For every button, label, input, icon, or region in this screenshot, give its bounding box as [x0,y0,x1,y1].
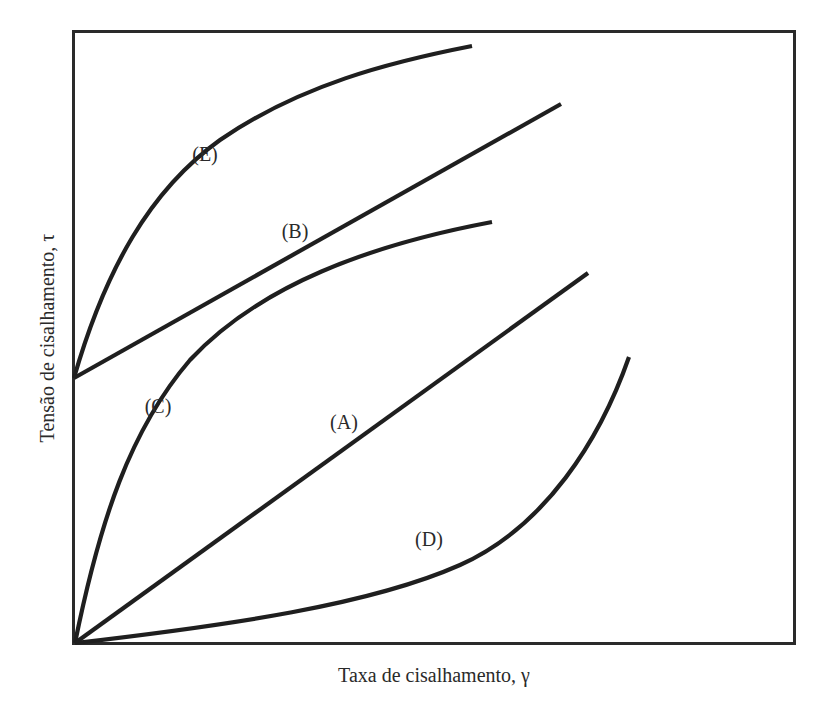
curve-label-b: (B) [282,221,309,241]
plot-frame [74,32,795,644]
rheogram-chart: (E) (B) (C) (A) (D) Taxa de cisalhamento… [0,0,834,701]
x-axis-label: Taxa de cisalhamento, γ [338,664,530,686]
curve-label-e: (E) [192,144,218,164]
plot-svg [0,0,834,701]
curve-label-c: (C) [145,396,172,416]
curve-a [75,273,588,643]
y-axis-label: Tensão de cisalhamento, τ [36,234,58,443]
curve-b [74,104,561,378]
curve-e [74,46,472,378]
curve-label-d: (D) [415,529,443,549]
curve-c [75,222,492,643]
curve-label-a: (A) [330,412,358,432]
